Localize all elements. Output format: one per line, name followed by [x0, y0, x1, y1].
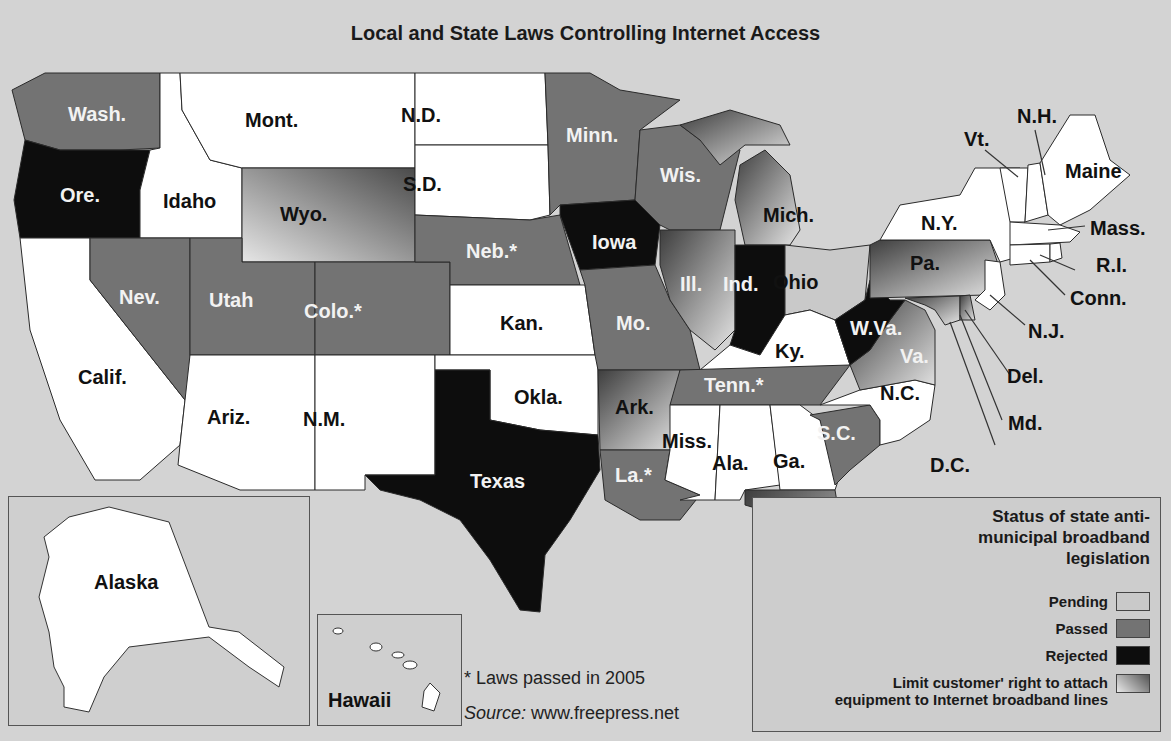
label-nj: N.J. — [1028, 320, 1065, 342]
label-utah: Utah — [209, 289, 253, 311]
label-tenn: Tenn.* — [704, 374, 764, 396]
label-iowa: Iowa — [592, 231, 637, 253]
footnote: * Laws passed in 2005 — [464, 668, 645, 689]
source-note: Source: www.freepress.net — [464, 703, 679, 724]
legend-item-rejected: Rejected — [1045, 646, 1150, 665]
pending-swatch — [1116, 592, 1150, 611]
label-kan: Kan. — [500, 312, 543, 334]
state-mass — [1010, 222, 1080, 245]
label-ind: Ind. — [723, 273, 759, 295]
source-url: www.freepress.net — [531, 703, 679, 723]
label-dc: D.C. — [930, 454, 970, 476]
label-pa: Pa. — [910, 252, 940, 274]
label-calif: Calif. — [78, 366, 127, 388]
label-nc: N.C. — [880, 382, 920, 404]
label-okla: Okla. — [514, 386, 563, 408]
legend-item-limit: Limit customer' right to attach equipmen… — [835, 674, 1150, 708]
label-mo: Mo. — [616, 312, 650, 334]
label-alaska: Alaska — [94, 571, 159, 593]
label-colo: Colo.* — [304, 300, 362, 322]
label-wva: W.Va. — [850, 317, 902, 339]
limit-swatch — [1116, 674, 1150, 693]
label-mass: Mass. — [1090, 217, 1146, 239]
label-ill: Ill. — [680, 273, 702, 295]
label-ny: N.Y. — [921, 212, 958, 234]
label-idaho: Idaho — [163, 190, 216, 212]
label-ky: Ky. — [775, 340, 805, 362]
label-wis: Wis. — [660, 164, 701, 186]
hawaii-shape: Hawaii — [318, 615, 461, 725]
legend: Status of state anti- municipal broadban… — [752, 497, 1161, 732]
label-nh: N.H. — [1017, 105, 1057, 127]
legend-item-passed: Passed — [1055, 619, 1150, 638]
state-conn — [1010, 244, 1050, 265]
label-va: Va. — [900, 345, 929, 367]
label-del: Del. — [1007, 365, 1044, 387]
label-nev: Nev. — [119, 286, 160, 308]
label-mont: Mont. — [245, 109, 298, 131]
label-ala: Ala. — [712, 452, 749, 474]
state-wyo — [242, 168, 415, 262]
label-md: Md. — [1008, 412, 1042, 434]
label-ohio: Ohio — [773, 271, 819, 293]
state-ri — [1050, 243, 1062, 262]
label-maine: Maine — [1065, 160, 1122, 182]
label-ore: Ore. — [60, 184, 100, 206]
label-nd: N.D. — [401, 104, 441, 126]
label-sd: S.D. — [403, 173, 442, 195]
state-mich — [735, 150, 800, 245]
label-vt: Vt. — [964, 128, 990, 150]
legend-item-pending: Pending — [1049, 592, 1150, 611]
label-texas: Texas — [470, 470, 525, 492]
alaska-inset: Alaska — [8, 496, 310, 726]
label-la: La.* — [615, 464, 652, 486]
label-sc: S.C. — [817, 422, 856, 444]
label-nm: N.M. — [303, 408, 345, 430]
label-ariz: Ariz. — [207, 406, 250, 428]
label-mich: Mich. — [763, 204, 814, 226]
label-miss: Miss. — [662, 430, 712, 452]
legend-title: Status of state anti- municipal broadban… — [978, 506, 1150, 569]
label-wyo: Wyo. — [280, 203, 327, 225]
state-del — [960, 295, 975, 320]
label-ga: Ga. — [773, 450, 805, 472]
alaska-shape: Alaska — [9, 497, 309, 725]
source-label: Source: — [464, 703, 526, 723]
rejected-swatch — [1116, 646, 1150, 665]
label-minn: Minn. — [566, 124, 618, 146]
label-conn: Conn. — [1070, 287, 1127, 309]
label-ri: R.I. — [1096, 254, 1127, 276]
label-wash: Wash. — [68, 103, 126, 125]
label-ark: Ark. — [615, 396, 654, 418]
passed-swatch — [1116, 619, 1150, 638]
hawaii-inset: Hawaii — [317, 614, 462, 726]
label-neb: Neb.* — [466, 240, 517, 262]
label-hawaii: Hawaii — [328, 689, 391, 711]
